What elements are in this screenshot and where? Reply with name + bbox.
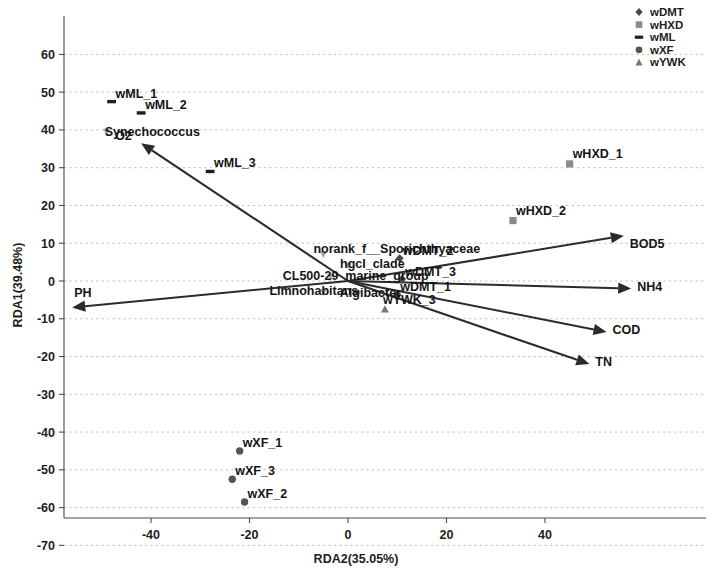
x-tick-label: -40	[142, 528, 160, 542]
y-tick-label: -70	[37, 539, 55, 553]
env-vector-arrowhead	[618, 283, 631, 294]
env-vector-label-nh4: NH4	[637, 280, 662, 294]
y-tick-label: -60	[37, 501, 55, 515]
x-axis-title: RDA2(35.05%)	[314, 552, 399, 566]
sample-label-wxf_2: wXF_2	[247, 487, 288, 501]
y-tick-label: 10	[41, 237, 55, 251]
plot-canvas: 6050403020100-10-20-30-40-50-60-70 -40-2…	[0, 0, 712, 571]
sample-marker-whxd_2	[509, 217, 516, 224]
env-vector-label-tn: TN	[595, 355, 612, 369]
x-tick-label: 0	[345, 528, 352, 542]
legend: wDMTwHXDwMLwXFwYWK	[635, 6, 687, 68]
env-vector-label-bod5: BOD5	[630, 237, 665, 251]
env-vector-arrowhead	[610, 232, 624, 243]
sample-label-wxf_3: wXF_3	[234, 464, 275, 478]
legend-marker-wxf	[636, 46, 643, 53]
y-tick-label: -50	[37, 463, 55, 477]
y-tick-label: 60	[41, 48, 55, 62]
x-axis-ticks: -40-2002040	[142, 518, 552, 542]
y-tick-label: -10	[37, 312, 55, 326]
x-tick-label: -20	[240, 528, 258, 542]
sample-label-wdmt_3: wDMT_3	[404, 265, 456, 279]
y-axis-title: RDA1(39.48%)	[11, 243, 25, 328]
env-vector-arrowhead	[141, 143, 155, 155]
env-vector-label-cod: COD	[613, 323, 641, 337]
y-tick-label: 0	[48, 275, 55, 289]
sample-label-wdmt_2: wDMT_2	[402, 244, 454, 258]
sample-label-wxf_1: wXF_1	[242, 436, 283, 450]
y-tick-label: 30	[41, 161, 55, 175]
legend-marker-whxd	[636, 21, 643, 28]
legend-marker-wywk	[635, 59, 642, 66]
sample-marker-whxd_1	[566, 160, 573, 167]
env-vector-label-o2: O2	[115, 129, 132, 143]
legend-label-whxd: wHXD	[649, 19, 683, 31]
x-tick-label: 40	[538, 528, 552, 542]
legend-label-wdmt: wDMT	[649, 6, 684, 18]
legend-label-wml: wML	[649, 31, 676, 43]
y-tick-label: -20	[37, 350, 55, 364]
y-tick-label: -30	[37, 388, 55, 402]
legend-label-wxf: wXF	[649, 44, 674, 56]
sample-label-wdmt_1: wDMT_1	[399, 280, 451, 294]
legend-label-wywk: wYWK	[649, 56, 686, 68]
legend-marker-wml	[635, 36, 643, 39]
y-tick-label: 20	[41, 199, 55, 213]
species-label: norank_f__Sporichthyaceae	[313, 242, 480, 256]
y-tick-label: -40	[37, 426, 55, 440]
sample-label-wml_3: wML_3	[213, 156, 256, 170]
sample-label-whxd_2: wHXD_2	[515, 204, 566, 218]
y-tick-label: 50	[41, 86, 55, 100]
sample-label-whxd_1: wHXD_1	[572, 147, 623, 161]
env-vector-label-ph: PH	[74, 286, 91, 300]
legend-marker-wdmt	[635, 8, 642, 16]
sample-label-wywk_3: wYWK_3	[382, 293, 436, 307]
env-vector-arrowhead	[593, 324, 607, 335]
y-tick-label: 40	[41, 123, 55, 137]
rda-ordination-figure: 6050403020100-10-20-30-40-50-60-70 -40-2…	[0, 0, 712, 571]
x-tick-label: 20	[440, 528, 454, 542]
env-vector-arrowhead	[72, 301, 85, 312]
y-axis-ticks: 6050403020100-10-20-30-40-50-60-70	[37, 48, 64, 553]
sample-label-wml_2: wML_2	[144, 98, 187, 112]
sample-points	[107, 100, 573, 506]
